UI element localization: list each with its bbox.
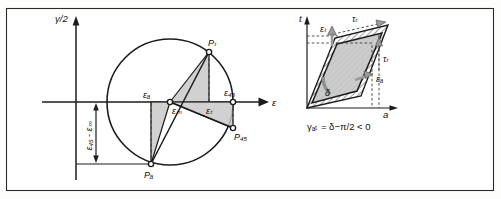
label-bracket: ε₄₅ - εₘ xyxy=(84,121,94,150)
node-eps45 xyxy=(230,99,235,104)
label-eps-45: ε₄₅ xyxy=(224,88,236,98)
label-eps-m: εₘ xyxy=(172,106,182,116)
label-shear-top: τₜ xyxy=(352,14,358,24)
label-eps-a-right: εₐ xyxy=(376,74,383,84)
t-axis-label: t xyxy=(299,13,302,24)
node-p45 xyxy=(230,125,235,130)
label-point-pt: Pₜ xyxy=(208,38,217,48)
figure-border xyxy=(7,9,494,191)
y-axis-label: γ/2 xyxy=(55,13,68,24)
label-eps-t: εₜ xyxy=(206,106,213,116)
label-point-pa: Pₐ xyxy=(144,170,153,180)
label-eps-a: εₐ xyxy=(143,90,150,100)
a-axis-label: a xyxy=(383,109,388,120)
node-em xyxy=(167,99,172,104)
gamma-equation: γₐₜ = δ−π/2 < 0 xyxy=(307,121,371,132)
label-point-p45: P₄₅ xyxy=(234,132,248,142)
node-pt xyxy=(206,49,211,54)
label-eps-t-right: εₜ xyxy=(320,24,327,34)
strain-mohr-circle-figure: γ/2 ε εₐ εₘ εₜ ε₄₅ Pₜ P₄₅ Pₐ ε₄₅ - εₘ xyxy=(0,0,501,199)
label-shear-right: τₜ xyxy=(383,54,389,64)
node-pa xyxy=(148,161,153,166)
